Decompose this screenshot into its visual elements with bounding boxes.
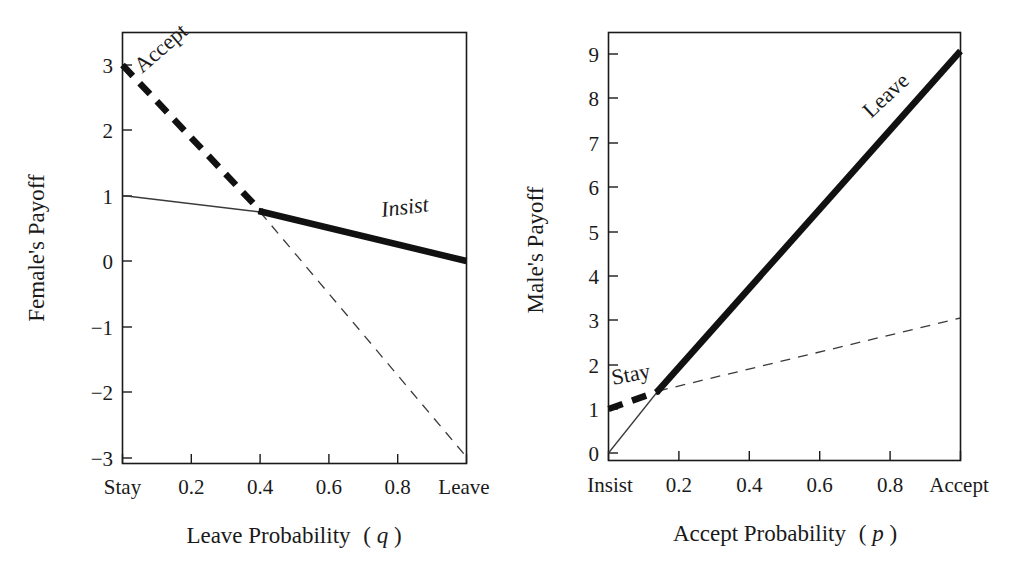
right-x-axis-title-text: Accept Probability xyxy=(673,521,847,546)
right-y-axis-title: Male's Payoff xyxy=(523,186,548,313)
left-curve-insist xyxy=(259,211,467,261)
right-y-tick-labels: 9 8 7 6 5 4 3 2 1 0 xyxy=(589,43,600,466)
right-x-ticks xyxy=(609,451,961,461)
left-curve-label-accept: Accept xyxy=(129,18,192,78)
right-ytick-9: 9 xyxy=(589,43,600,67)
left-xtick-06: 0.6 xyxy=(316,475,342,499)
left-ytick-2: 2 xyxy=(103,119,114,143)
figure-two-panel-payoff-chart: Accept Insist 3 2 1 0 −1 −2 −3 Stay 0.2 … xyxy=(0,0,1027,575)
left-ytick-neg2: −2 xyxy=(91,381,113,405)
left-xtick-stay: Stay xyxy=(104,475,142,499)
right-panel-svg: Stay Leave 9 8 7 6 5 4 3 2 1 0 Insist 0.… xyxy=(513,0,1027,575)
left-x-axis-title-close: ) xyxy=(394,523,402,548)
left-xtick-04: 0.4 xyxy=(247,475,274,499)
left-xtick-02: 0.2 xyxy=(178,475,204,499)
right-x-axis-title-open: ( xyxy=(859,521,867,546)
left-ytick-neg1: −1 xyxy=(91,316,113,340)
chart-panel-female-payoff: Accept Insist 3 2 1 0 −1 −2 −3 Stay 0.2 … xyxy=(0,0,513,575)
left-x-axis-title: Leave Probability ( q ) xyxy=(186,523,401,548)
right-x-axis-title: Accept Probability ( p ) xyxy=(673,521,897,546)
right-xtick-08: 0.8 xyxy=(877,473,903,497)
chart-panel-male-payoff: Stay Leave 9 8 7 6 5 4 3 2 1 0 Insist 0.… xyxy=(513,0,1027,575)
right-ytick-8: 8 xyxy=(589,87,600,111)
left-xtick-08: 0.8 xyxy=(385,475,411,499)
right-y-ticks xyxy=(609,54,619,453)
left-x-axis-title-open: ( xyxy=(363,523,371,548)
right-x-axis-title-var: p xyxy=(870,521,884,546)
right-ytick-4: 4 xyxy=(589,265,600,289)
left-curve-accept-dominated xyxy=(260,212,466,457)
left-curve-insist-dominated xyxy=(123,196,261,213)
right-ytick-3: 3 xyxy=(589,309,600,333)
right-xtick-accept: Accept xyxy=(929,473,989,497)
right-curve-label-stay: Stay xyxy=(609,358,652,390)
left-y-tick-labels: 3 2 1 0 −1 −2 −3 xyxy=(91,54,113,471)
right-ytick-6: 6 xyxy=(589,176,600,200)
left-x-tick-labels: Stay 0.2 0.4 0.6 0.8 Leave xyxy=(104,475,490,499)
left-panel-svg: Accept Insist 3 2 1 0 −1 −2 −3 Stay 0.2 … xyxy=(0,0,513,575)
right-curve-leave xyxy=(657,51,961,393)
right-ytick-7: 7 xyxy=(589,132,600,156)
left-y-axis-title: Female's Payoff xyxy=(24,174,49,322)
right-xtick-04: 0.4 xyxy=(736,473,763,497)
left-xtick-leave: Leave xyxy=(438,475,489,499)
right-curve-stay-dominated xyxy=(658,318,961,391)
left-x-axis-title-text: Leave Probability xyxy=(186,523,351,548)
right-x-tick-labels: Insist 0.2 0.4 0.6 0.8 Accept xyxy=(587,473,989,497)
left-ytick-0: 0 xyxy=(103,250,114,274)
left-x-ticks xyxy=(123,454,467,464)
left-ytick-3: 3 xyxy=(103,54,114,78)
left-x-axis-title-var: q xyxy=(377,523,389,548)
right-x-axis-title-close: ) xyxy=(889,521,897,546)
left-curve-accept xyxy=(123,65,262,212)
right-ytick-0: 0 xyxy=(589,442,600,466)
right-xtick-02: 0.2 xyxy=(666,473,692,497)
right-ytick-5: 5 xyxy=(589,221,600,245)
right-ytick-1: 1 xyxy=(589,398,600,422)
left-ytick-1: 1 xyxy=(103,185,114,209)
right-ytick-2: 2 xyxy=(589,354,600,378)
left-y-ticks xyxy=(123,65,133,458)
left-ytick-neg3: −3 xyxy=(91,447,113,471)
right-xtick-06: 0.6 xyxy=(807,473,833,497)
left-curve-label-insist: Insist xyxy=(379,191,431,222)
right-xtick-insist: Insist xyxy=(587,473,633,497)
